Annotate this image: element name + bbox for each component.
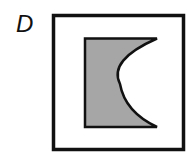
diagram-figure (0, 0, 189, 160)
